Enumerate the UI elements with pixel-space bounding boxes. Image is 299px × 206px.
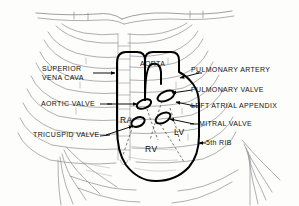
dashed-aortic-down xyxy=(147,109,158,140)
leader-pulmonary-valve xyxy=(172,90,192,93)
clavicle-right-lower xyxy=(124,16,234,24)
dashed-tricuspid-to-apex xyxy=(123,126,133,155)
leader-tricuspid-valve xyxy=(106,126,133,135)
leader-dash-tricuspid xyxy=(100,135,110,136)
clavicle-right xyxy=(122,11,232,19)
label-aortic-valve: AORTIC VALVE xyxy=(41,100,95,109)
label-mitral-valve: MITRAL VALVE xyxy=(199,120,252,129)
inner-line-2 xyxy=(128,157,178,161)
dashed-pulmonary-down xyxy=(150,101,162,140)
aortic-valve-ellipse xyxy=(135,97,152,110)
label-left-atrial-appendix: LEFT ATRIAL APPENDIX xyxy=(191,102,277,111)
clavicle-left xyxy=(36,13,122,19)
label-superior-vena-cava-line2: VENA CAVA xyxy=(42,73,84,82)
costal-cartilage-left-4 xyxy=(58,160,61,205)
rib-right-1 xyxy=(128,23,187,35)
costal-margin-right-b xyxy=(172,182,232,203)
clavicle-left-lower xyxy=(38,18,124,24)
costal-cartilage-left-2 xyxy=(62,154,86,200)
valve-ellipses-group xyxy=(130,88,176,129)
inner-line-4 xyxy=(82,162,110,168)
pulmonary-valve-ellipse xyxy=(156,88,176,104)
label-pulmonary-valve: PULMONARY VALVE xyxy=(191,86,264,95)
chamber-label-left-ventricle: LV xyxy=(174,127,185,137)
label-pulmonary-artery: PULMONARY ARTERY xyxy=(191,66,270,75)
anatomy-figure: SUPERIOR VENA CAVA AORTIC VALVE TRICUSPI… xyxy=(0,0,299,206)
rib-left-1 xyxy=(62,24,118,35)
label-aorta: AORTA xyxy=(140,60,165,69)
mitral-valve-ellipse xyxy=(154,110,172,126)
label-tricuspid-valve: TRICUSPID VALVE xyxy=(33,131,99,140)
chamber-label-right-ventricle: RV xyxy=(145,144,157,154)
label-superior-vena-cava: SUPERIOR VENA CAVA xyxy=(42,64,84,82)
rib-left-2 xyxy=(48,32,118,58)
chamber-label-right-atrium: RA xyxy=(120,115,133,125)
label-5th-rib: 5th RIB xyxy=(206,139,232,148)
costal-margin-right xyxy=(178,170,238,191)
costal-cartilage-left-3 xyxy=(60,157,73,204)
inner-line-3 xyxy=(134,168,176,171)
leader-lines-group xyxy=(93,73,206,143)
leader-mitral-valve xyxy=(170,119,194,124)
rib-right-1-lower xyxy=(128,25,192,43)
label-superior-vena-cava-line1: SUPERIOR xyxy=(42,64,84,73)
